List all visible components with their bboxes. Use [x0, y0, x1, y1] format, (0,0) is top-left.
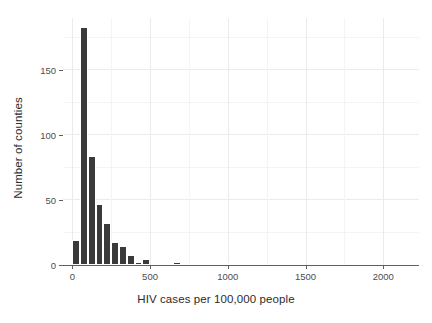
gridline-y-major — [63, 199, 419, 200]
x-axis-line — [63, 265, 419, 266]
histogram-bar — [96, 204, 104, 265]
x-tick-label: 500 — [142, 271, 158, 282]
gridline-y-minor — [63, 167, 419, 168]
gridline-x-major — [228, 18, 229, 265]
x-tick-mark — [228, 265, 229, 269]
y-axis-title: Number of counties — [12, 68, 24, 228]
histogram-bar — [127, 255, 135, 265]
y-tick-label: 0 — [51, 260, 56, 271]
y-tick-label: 50 — [45, 195, 56, 206]
y-tick-label: 100 — [40, 130, 56, 141]
gridline-y-minor — [63, 232, 419, 233]
histogram-bar — [103, 223, 111, 265]
histogram-bar — [88, 156, 96, 265]
gridline-x-major — [383, 18, 384, 265]
y-tick-mark — [59, 135, 63, 136]
gridline-x-major — [306, 18, 307, 265]
gridline-x-minor — [111, 18, 112, 265]
x-tick-label: 2000 — [373, 271, 394, 282]
x-tick-label: 1000 — [217, 271, 238, 282]
x-tick-mark — [150, 265, 151, 269]
histogram-bar — [111, 242, 119, 265]
y-tick-mark — [59, 70, 63, 71]
x-tick-mark — [72, 265, 73, 269]
y-tick-label: 150 — [40, 65, 56, 76]
x-axis-title: HIV cases per 100,000 people — [0, 293, 432, 305]
x-tick-label: 0 — [70, 271, 75, 282]
y-tick-mark — [59, 265, 63, 266]
gridline-y-major — [63, 134, 419, 135]
gridline-y-minor — [63, 37, 419, 38]
gridline-x-major — [150, 18, 151, 265]
gridline-x-minor — [189, 18, 190, 265]
gridline-y-major — [63, 69, 419, 70]
gridline-x-minor — [267, 18, 268, 265]
y-tick-mark — [59, 200, 63, 201]
gridline-x-major — [72, 18, 73, 265]
x-tick-label: 1500 — [295, 271, 316, 282]
histogram-figure: 0500100015002000 050100150 HIV cases per… — [0, 0, 432, 323]
histogram-bar — [80, 27, 88, 265]
gridline-x-minor — [344, 18, 345, 265]
histogram-bar — [119, 246, 127, 266]
histogram-bar — [72, 240, 80, 265]
x-tick-mark — [383, 265, 384, 269]
plot-panel — [63, 18, 419, 265]
x-tick-mark — [306, 265, 307, 269]
gridline-y-minor — [63, 102, 419, 103]
